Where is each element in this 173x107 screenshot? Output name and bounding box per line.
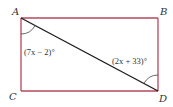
vertex-label-c: C [9,91,17,102]
vertex-label-a: A [11,6,19,17]
vertex-label-d: D [158,93,167,104]
angle-label-a: (7x − 2)° [24,47,55,57]
angle-arc-a [21,26,35,35]
angle-arc-d [144,75,158,84]
angle-label-d: (2x + 33)° [112,56,147,66]
vertex-label-b: B [159,6,167,17]
rectangle-diagram: A B C D (7x − 2)° (2x + 33)° [0,0,173,107]
